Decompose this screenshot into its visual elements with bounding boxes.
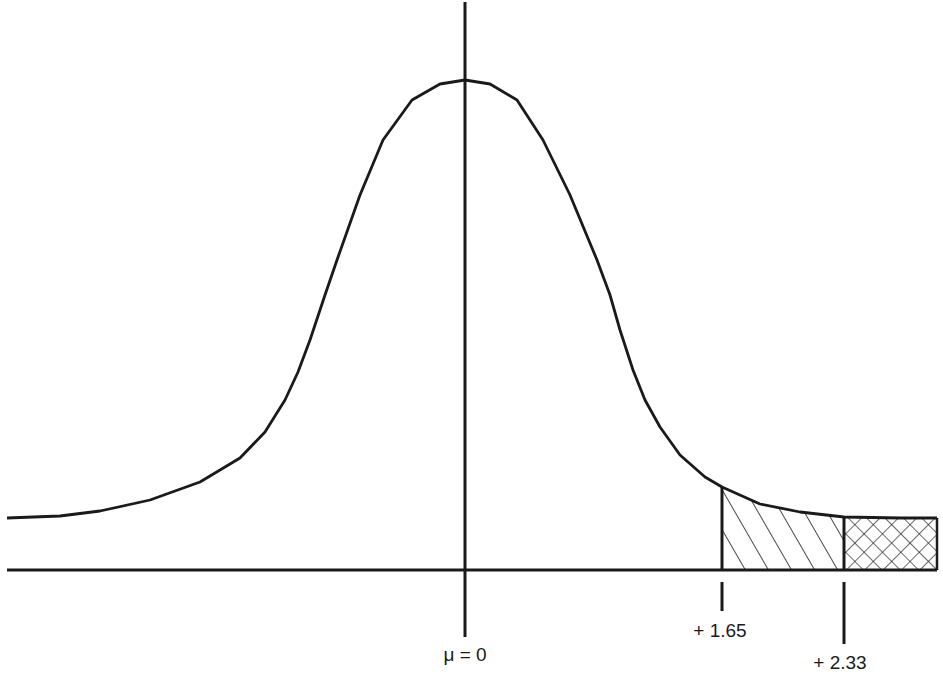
critical-label-2.33: + 2.33 [813,652,866,673]
cross-hatched-region [844,517,937,570]
critical-label-1.65: + 1.65 [693,620,746,641]
normal-curve [7,80,937,518]
mean-label: μ = 0 [443,644,486,665]
single-hatched-region [722,487,844,570]
normal-distribution-diagram: μ = 0 + 1.65 + 2.33 [0,0,943,675]
